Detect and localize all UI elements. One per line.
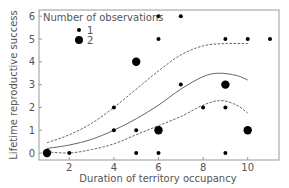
y-tick-label: 4	[29, 56, 35, 67]
legend-marker-large	[75, 36, 83, 44]
legend-label-2: 2	[87, 35, 93, 46]
plot-border	[39, 10, 279, 160]
data-point	[134, 128, 138, 132]
data-point	[154, 126, 162, 134]
y-tick-label: 2	[29, 102, 35, 113]
y-tick-label: 3	[29, 79, 35, 90]
x-tick-label: 2	[66, 162, 72, 173]
data-point	[223, 105, 227, 109]
data-point	[246, 37, 250, 41]
y-tick-label: 6	[29, 11, 35, 22]
x-axis: 246810	[66, 157, 254, 173]
data-point	[132, 58, 140, 66]
confidence-curve	[47, 43, 248, 142]
data-point	[179, 83, 183, 87]
legend: Number of observations 1 2	[43, 12, 164, 46]
x-tick-label: 4	[111, 162, 117, 173]
fit-lines	[47, 43, 248, 153]
data-point	[134, 151, 138, 155]
data-point	[112, 105, 116, 109]
confidence-curve	[47, 101, 248, 154]
data-point	[223, 151, 227, 155]
scatter-chart: 0123456 246810 Number of observations 1 …	[0, 0, 289, 188]
legend-title: Number of observations	[43, 12, 164, 23]
y-tick-label: 5	[29, 34, 35, 45]
x-tick-label: 8	[200, 162, 206, 173]
y-axis-label: Lifetime reproductive success	[8, 10, 19, 159]
legend-marker-small	[77, 28, 81, 32]
data-points	[43, 14, 272, 157]
fitted-curve	[47, 73, 248, 148]
x-axis-label: Duration of territory occupancy	[79, 173, 236, 184]
data-point	[157, 37, 161, 41]
data-point	[244, 126, 252, 134]
data-point	[179, 14, 183, 18]
y-tick-label: 1	[29, 125, 35, 136]
data-point	[201, 105, 205, 109]
data-point	[223, 37, 227, 41]
data-point	[43, 149, 51, 157]
y-axis: 0123456	[29, 11, 42, 159]
data-point	[157, 151, 161, 155]
x-tick-label: 6	[155, 162, 161, 173]
x-tick-label: 10	[241, 162, 254, 173]
data-point	[67, 151, 71, 155]
data-point	[268, 37, 272, 41]
data-point	[221, 80, 229, 88]
chart-canvas: 0123456 246810 Number of observations 1 …	[0, 0, 289, 188]
y-tick-label: 0	[29, 148, 35, 159]
data-point	[112, 128, 116, 132]
plot-frame	[39, 10, 279, 160]
